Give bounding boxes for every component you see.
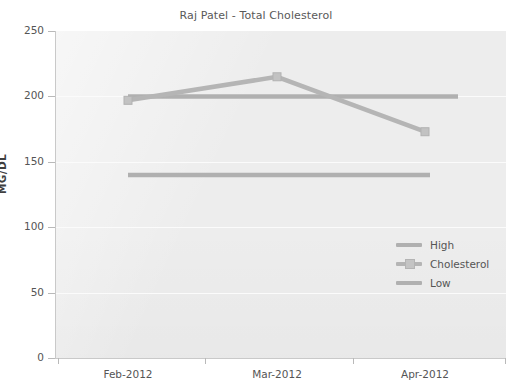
x-axis-tick-label: Mar-2012 — [252, 368, 302, 380]
x-axis-line — [55, 358, 506, 359]
y-axis-tick — [48, 293, 55, 294]
y-axis-tick — [48, 31, 55, 32]
x-axis-tick-label: Apr-2012 — [401, 368, 449, 380]
x-axis-tick — [505, 358, 506, 364]
legend-label: Low — [430, 277, 451, 289]
y-axis-tick-label: 200 — [0, 89, 44, 101]
legend-label: Cholesterol — [430, 258, 489, 270]
chart-title: Raj Patel - Total Cholesterol — [0, 9, 512, 22]
legend-swatch-icon — [396, 281, 422, 285]
x-axis-tick — [58, 358, 59, 364]
y-axis-tick-label: 50 — [0, 286, 44, 298]
gridline — [56, 227, 506, 228]
y-axis-tick-label: 250 — [0, 24, 44, 36]
chart-legend: HighCholesterolLow — [396, 236, 500, 293]
y-axis-tick — [48, 227, 55, 228]
x-axis-tick — [205, 358, 206, 364]
y-axis-tick — [48, 358, 55, 359]
legend-item-low[interactable]: Low — [396, 274, 500, 291]
legend-swatch-icon — [396, 262, 422, 266]
y-axis-tick — [48, 96, 55, 97]
gridline — [56, 96, 506, 97]
x-axis-tick-label: Feb-2012 — [103, 368, 152, 380]
plot-area — [56, 31, 506, 358]
cholesterol-chart: Raj Patel - Total Cholesterol 0501001502… — [0, 0, 512, 387]
legend-swatch-icon — [396, 243, 422, 247]
plot-texture-overlay — [56, 31, 506, 358]
y-axis-line — [55, 31, 56, 359]
legend-item-cholesterol[interactable]: Cholesterol — [396, 255, 500, 272]
legend-label: High — [430, 239, 454, 251]
y-axis-title: MG/DL — [0, 154, 8, 194]
gridline — [56, 162, 506, 163]
x-axis-tick — [353, 358, 354, 364]
legend-item-high[interactable]: High — [396, 236, 500, 253]
y-axis-tick-label: 0 — [0, 351, 44, 363]
y-axis-tick — [48, 162, 55, 163]
y-axis-tick-label: 100 — [0, 220, 44, 232]
